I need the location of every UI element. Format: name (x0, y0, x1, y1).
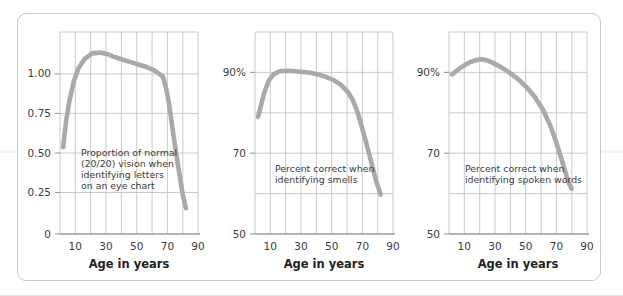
x-tick-label: 70 (356, 240, 369, 252)
x-tick-label: 30 (488, 240, 501, 252)
annotation-line: Proportion of normal (81, 147, 177, 158)
x-tick-label: 90 (191, 240, 204, 252)
y-tick-label: 90% (417, 66, 440, 78)
x-tick-label: 30 (99, 240, 112, 252)
chart-svg-vision: 1.00 0.75 0.50 0.25 0 10 30 50 70 90 Age… (18, 14, 213, 280)
chart-svg-smells: 90% 70 50 10 30 50 70 90 Age in years Pe… (213, 14, 408, 280)
x-axis-title: Age in years (478, 257, 559, 271)
figure-frame: 1.00 0.75 0.50 0.25 0 10 30 50 70 90 Age… (17, 13, 601, 281)
y-tick-labels: 90% 70 50 (223, 66, 246, 240)
x-tick-label: 70 (161, 240, 174, 252)
x-tick-label: 90 (386, 240, 399, 252)
annotation-line: identifying smells (275, 174, 358, 185)
y-tick-label: 0 (44, 228, 51, 240)
x-axis-title: Age in years (284, 257, 365, 271)
x-tick-label: 10 (264, 240, 277, 252)
annotation-line: (20/20) vision when (81, 158, 174, 169)
x-tick-label: 10 (69, 240, 82, 252)
x-tick-label: 50 (325, 240, 338, 252)
chart-panel-spoken-words: 90% 70 50 10 30 50 70 90 Age in years Pe… (407, 14, 602, 280)
y-tick-label: 70 (233, 147, 246, 159)
chart-svg-spoken-words: 90% 70 50 10 30 50 70 90 Age in years Pe… (407, 14, 602, 280)
annotation-line: on an eye chart (81, 180, 155, 191)
x-tick-label: 50 (519, 240, 532, 252)
y-axis-ticks (444, 72, 449, 234)
x-tick-label: 90 (580, 240, 593, 252)
y-tick-label: 50 (427, 228, 440, 240)
plot-area-background (255, 32, 393, 234)
y-axis-ticks (55, 74, 60, 234)
chart-panel-smells: 90% 70 50 10 30 50 70 90 Age in years Pe… (213, 14, 408, 280)
y-tick-labels: 90% 70 50 (417, 66, 440, 240)
y-tick-label: 0.50 (28, 147, 51, 159)
x-tick-label: 50 (130, 240, 143, 252)
chart-panel-vision: 1.00 0.75 0.50 0.25 0 10 30 50 70 90 Age… (18, 14, 213, 280)
annotation-line: identifying letters (81, 169, 164, 180)
y-tick-label: 0.75 (28, 107, 51, 119)
x-axis-title: Age in years (89, 257, 170, 271)
y-tick-label: 1.00 (28, 67, 51, 79)
y-tick-label: 90% (223, 66, 246, 78)
x-tick-labels: 10 30 50 70 90 (264, 240, 400, 252)
x-tick-labels: 10 30 50 70 90 (69, 240, 205, 252)
x-tick-label: 10 (458, 240, 471, 252)
y-tick-label: 70 (427, 147, 440, 159)
y-tick-label: 0.25 (28, 186, 51, 198)
annotation-line: Percent correct when (465, 163, 564, 174)
chart-panel-group: 1.00 0.75 0.50 0.25 0 10 30 50 70 90 Age… (18, 14, 600, 280)
y-tick-label: 50 (233, 228, 246, 240)
y-tick-labels: 1.00 0.75 0.50 0.25 0 (28, 67, 51, 239)
x-tick-label: 30 (294, 240, 307, 252)
annotation-line: identifying spoken words (465, 174, 582, 185)
y-axis-ticks (250, 72, 255, 234)
x-tick-label: 70 (550, 240, 563, 252)
x-tick-labels: 10 30 50 70 90 (458, 240, 594, 252)
annotation-line: Percent correct when (275, 163, 374, 174)
